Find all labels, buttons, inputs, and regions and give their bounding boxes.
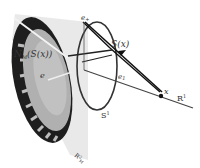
label-n-of-s: NM(S(x)) [13,49,53,60]
diagram-canvas: e+ S(x) e1 x R1 S1 NM(S(x)) e R2M [0,0,200,168]
label-x: x [164,87,169,96]
point-x [159,94,163,98]
label-s-of-x: S(x) [111,39,130,49]
line-eplus-x [85,22,162,92]
label-s1: S1 [101,110,110,120]
label-e-plus: e+ [81,14,89,22]
label-e-minus: e [40,71,45,80]
label-r1: R1 [177,93,186,103]
label-e1: e1 [118,73,125,81]
